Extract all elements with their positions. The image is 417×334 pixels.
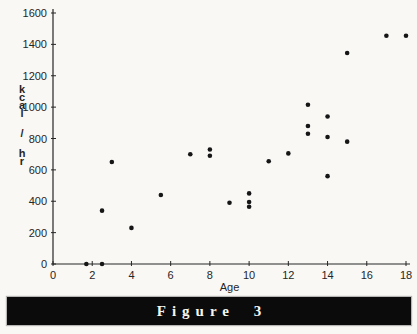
data-point xyxy=(129,226,134,231)
data-point xyxy=(110,160,115,165)
x-tick-label: 2 xyxy=(89,269,95,281)
data-point xyxy=(325,135,330,140)
x-tick-label: 10 xyxy=(243,269,255,281)
data-point xyxy=(306,124,311,129)
data-point xyxy=(159,193,164,198)
figure-caption: Figure 3 xyxy=(151,303,267,320)
x-axis-title: Age xyxy=(220,281,240,293)
data-point xyxy=(384,33,389,38)
x-tick-label: 16 xyxy=(361,269,373,281)
scatter-chart: 0200400600800100012001400160002468101214… xyxy=(0,0,417,297)
data-point xyxy=(247,191,252,196)
data-point xyxy=(306,131,311,136)
y-tick-label: 1200 xyxy=(23,70,47,82)
data-point xyxy=(84,262,89,267)
y-tick-label: 200 xyxy=(29,227,47,239)
data-point xyxy=(325,114,330,119)
x-tick-label: 6 xyxy=(168,269,174,281)
x-tick-label: 4 xyxy=(128,269,134,281)
data-point xyxy=(247,204,252,209)
y-tick-label: 1400 xyxy=(23,38,47,50)
data-point xyxy=(188,152,193,157)
data-point xyxy=(100,208,105,213)
data-point xyxy=(266,159,271,164)
x-tick-label: 0 xyxy=(50,269,56,281)
data-point xyxy=(306,102,311,107)
figure-caption-banner: Figure 3 xyxy=(7,297,411,325)
y-axis-title-char: r xyxy=(20,155,25,167)
y-tick-label: 800 xyxy=(29,133,47,145)
data-point xyxy=(208,147,213,152)
scatter-plot-svg: 0200400600800100012001400160002468101214… xyxy=(0,0,417,297)
data-point xyxy=(345,139,350,144)
scanned-figure-page: 0200400600800100012001400160002468101214… xyxy=(0,0,417,334)
data-point xyxy=(227,201,232,206)
x-tick-label: 14 xyxy=(321,269,333,281)
data-point xyxy=(345,51,350,56)
data-point xyxy=(286,151,291,156)
data-point xyxy=(404,33,409,38)
y-tick-label: 1600 xyxy=(23,7,47,19)
data-point xyxy=(208,153,213,158)
y-tick-label: 400 xyxy=(29,195,47,207)
x-tick-label: 12 xyxy=(282,269,294,281)
data-point xyxy=(100,262,105,267)
x-tick-label: 18 xyxy=(400,269,412,281)
y-axis-title-char: l xyxy=(20,107,23,119)
data-point xyxy=(325,174,330,179)
y-tick-label: 1000 xyxy=(23,101,47,113)
y-tick-label: 0 xyxy=(41,258,47,270)
data-point xyxy=(247,200,252,205)
x-tick-label: 8 xyxy=(207,269,213,281)
y-axis-title-char: / xyxy=(20,127,23,139)
y-tick-label: 600 xyxy=(29,164,47,176)
